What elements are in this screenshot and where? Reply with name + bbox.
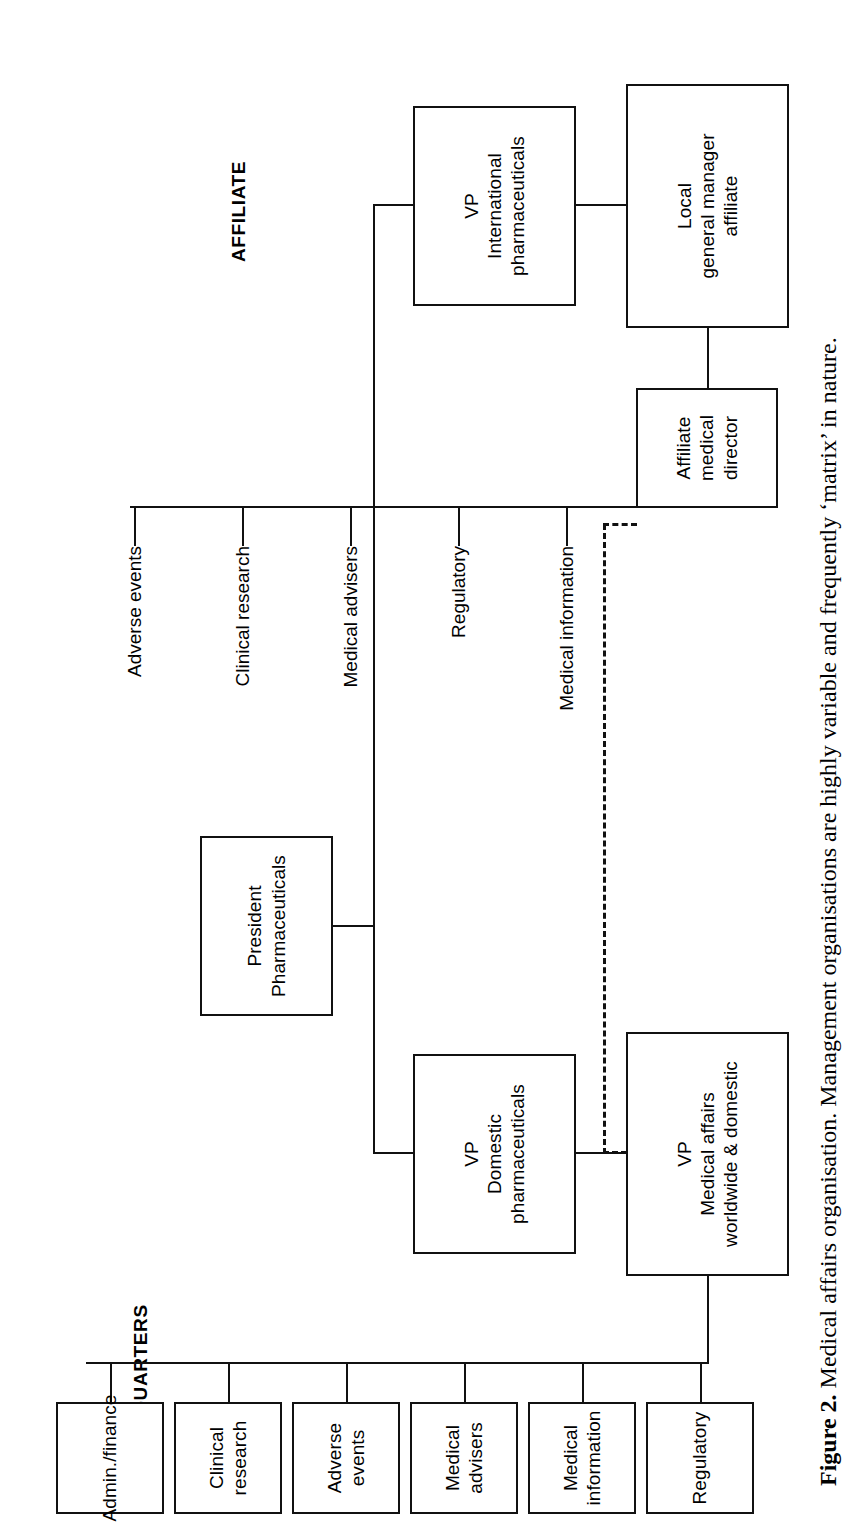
matrix-dashed-line-vertical-end [603, 523, 637, 526]
affiliate-unit-label: Clinical research [232, 546, 254, 722]
connector-vpinternational-to-localgm [576, 204, 626, 206]
node-president-line1: President [243, 855, 266, 997]
node-vp-international[interactable]: VP International pharmaceuticals [413, 106, 576, 306]
affiliate-unit-label: Adverse events [124, 546, 146, 722]
hq-unit-label-line2: research [228, 1421, 251, 1496]
connector-affiliate-unit-stub-1 [566, 508, 568, 546]
connector-localgm-to-affiliate-md [707, 328, 709, 388]
hq-unit-label-line2: information [582, 1410, 605, 1505]
connector-affiliate-unit-stub-2 [458, 508, 460, 546]
node-affiliate-md-line1: Affiliate [672, 415, 695, 481]
org-chart-rotated-canvas: HEADQUARTERS AFFILIATE President Pharmac… [0, 0, 790, 1494]
connector-hq-unit-stub-5 [582, 1364, 584, 1402]
connector-hq-bus-left-drop [373, 1152, 413, 1154]
connector-affiliate-unit-spine [130, 506, 638, 508]
node-president[interactable]: President Pharmaceuticals [200, 836, 333, 1016]
node-vp-international-line2: International [483, 136, 506, 276]
matrix-dashed-line-vertical [603, 1151, 627, 1154]
connector-affiliate-unit-stub-5 [134, 508, 136, 546]
node-vp-domestic-line2: Domestic [483, 1084, 506, 1224]
hq-unit-box[interactable]: Admin./finance [56, 1402, 164, 1514]
connector-affiliate-unit-stub-4 [242, 508, 244, 546]
node-vp-medical-affairs-line2: Medical affairs [696, 1061, 719, 1247]
node-affiliate-md-line2: medical [695, 415, 718, 481]
hq-unit-label-line2: advisers [464, 1422, 487, 1494]
connector-hq-bus [373, 204, 375, 1154]
hq-unit-label-line1: Medical [559, 1410, 582, 1505]
connector-hq-unit-stub-4 [464, 1364, 466, 1402]
node-vp-medical-affairs-line1: VP [673, 1061, 696, 1247]
connector-medicalaffairs-to-unit-spine [707, 1276, 709, 1364]
node-affiliate-md-line3: director [719, 415, 742, 481]
connector-affiliate-unit-stub-3 [350, 508, 352, 546]
connector-hq-unit-stub-6 [700, 1364, 702, 1402]
figure-caption-text: Medical affairs organisation. Management… [815, 337, 841, 1388]
hq-unit-label-line1: Admin./finance [98, 1394, 121, 1521]
node-local-general-manager[interactable]: Local general manager affiliate [626, 84, 789, 328]
hq-unit-label-line1: Regulatory [688, 1412, 711, 1505]
hq-unit-box[interactable]: Medical information [528, 1402, 636, 1514]
node-vp-domestic-line1: VP [460, 1084, 483, 1224]
node-vp-international-line1: VP [460, 136, 483, 276]
node-local-gm-line2: general manager [696, 133, 719, 278]
hq-unit-label-line2: events [346, 1423, 369, 1493]
node-local-gm-line1: Local [673, 133, 696, 278]
node-vp-international-line3: pharmaceuticals [506, 136, 529, 276]
hq-unit-box[interactable]: Clinical research [174, 1402, 282, 1514]
connector-president-down [333, 925, 373, 927]
connector-hq-unit-stub-3 [346, 1364, 348, 1402]
connector-hq-unit-stub-2 [228, 1364, 230, 1402]
node-president-line2: Pharmaceuticals [267, 855, 290, 997]
matrix-dashed-line-horizontal [603, 524, 606, 1154]
node-vp-medical-affairs-line3: worldwide & domestic [719, 1061, 742, 1247]
org-chart: HEADQUARTERS AFFILIATE President Pharmac… [0, 0, 790, 1494]
section-label-affiliate: AFFILIATE [228, 161, 250, 262]
figure-caption: Figure 2. Medical affairs organisation. … [812, 16, 844, 1486]
node-vp-domestic-line3: pharmaceuticals [506, 1084, 529, 1224]
hq-unit-box[interactable]: Adverse events [292, 1402, 400, 1514]
hq-unit-box[interactable]: Regulatory [646, 1402, 754, 1514]
connector-hq-bus-right-drop [373, 204, 413, 206]
affiliate-unit-label: Regulatory [448, 546, 470, 722]
hq-unit-label-line1: Clinical [205, 1421, 228, 1496]
connector-hq-unit-spine [86, 1362, 707, 1364]
node-affiliate-medical-director[interactable]: Affiliate medical director [636, 388, 778, 508]
hq-unit-box[interactable]: Medical advisers [410, 1402, 518, 1514]
figure-caption-label: Figure 2. [815, 1394, 841, 1486]
node-vp-domestic[interactable]: VP Domestic pharmaceuticals [413, 1054, 576, 1254]
hq-unit-label-line1: Medical [441, 1422, 464, 1494]
affiliate-unit-label: Medical information [556, 546, 578, 722]
hq-unit-label-line1: Adverse [323, 1423, 346, 1493]
affiliate-unit-label: Medical advisers [340, 546, 362, 722]
node-vp-medical-affairs[interactable]: VP Medical affairs worldwide & domestic [626, 1032, 789, 1276]
node-local-gm-line3: affiliate [719, 133, 742, 278]
